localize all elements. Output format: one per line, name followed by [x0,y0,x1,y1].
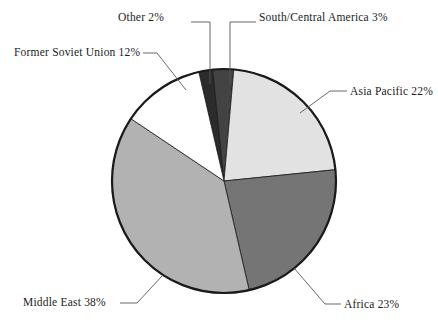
pie-label-middle-east: Middle East 38% [23,297,106,309]
leader-line-middle-east [120,275,163,303]
pie-label-africa: Africa 23% [344,299,399,311]
pie-label-other: Other 2% [118,12,164,24]
pie-label-former-soviet-union: Former Soviet Union 12% [14,47,140,59]
pie-slice-asia-pacific[interactable] [224,69,335,181]
pie-slices [112,69,336,293]
pie-label-asia-pacific: Asia Pacific 22% [350,86,433,98]
pie-label-south-central-america: South/Central America 3% [259,12,388,24]
leader-line-africa [294,268,341,304]
